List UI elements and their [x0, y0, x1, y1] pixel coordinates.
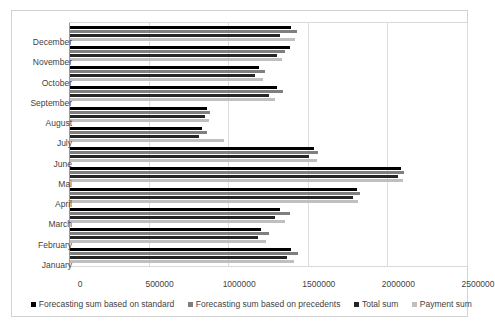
bar-group [70, 23, 467, 43]
bar [70, 171, 404, 174]
category-label: Mai [12, 179, 76, 189]
bar-group [70, 124, 467, 144]
legend-label: Forecasting sum based on precedents [196, 299, 341, 309]
legend-swatch-icon [412, 302, 417, 307]
bar [70, 252, 298, 255]
bar [70, 220, 285, 223]
category-label: March [12, 219, 76, 229]
category-label: July [12, 138, 76, 148]
legend-swatch-icon [188, 302, 193, 307]
value-tick-label: 500000 [145, 279, 173, 290]
category-label: January [12, 260, 76, 270]
chart-frame: DecemberNovemberOctoberSeptemberAugustJu… [11, 10, 468, 317]
bar-group [70, 64, 467, 84]
bar [70, 200, 358, 203]
bar [70, 248, 291, 251]
bar [70, 115, 205, 118]
bar-group [70, 165, 467, 185]
legend-item[interactable]: Payment sum [412, 299, 471, 309]
bar [70, 216, 275, 219]
legend-item[interactable]: Forecasting sum based on standard [31, 299, 174, 309]
bar [70, 151, 318, 154]
legend-swatch-icon [354, 302, 359, 307]
bar [70, 66, 259, 69]
plot-area [69, 22, 468, 267]
bar-group [70, 43, 467, 63]
category-axis-labels: DecemberNovemberOctoberSeptemberAugustJu… [12, 32, 76, 277]
bar [70, 159, 317, 162]
category-label: August [12, 118, 76, 128]
legend-item[interactable]: Total sum [354, 299, 398, 309]
bar [70, 70, 265, 73]
category-label: October [12, 78, 76, 88]
legend-item[interactable]: Forecasting sum based on precedents [188, 299, 340, 309]
bar [70, 78, 263, 81]
bar [70, 179, 403, 182]
bar [70, 74, 255, 77]
bar [70, 26, 291, 29]
bar [70, 38, 295, 41]
category-label: September [12, 98, 76, 108]
bar [70, 127, 202, 130]
bar [70, 90, 283, 93]
legend-label: Total sum [362, 299, 398, 309]
value-tick-label: 2500000 [461, 279, 494, 290]
bar [70, 236, 258, 239]
chart-legend: Forecasting sum based on standardForecas… [24, 299, 479, 309]
value-tick-label: 1500000 [302, 279, 335, 290]
bar [70, 50, 285, 53]
bar [70, 256, 287, 259]
category-label: April [12, 199, 76, 209]
bar-group [70, 226, 467, 246]
bar [70, 135, 199, 138]
gridline [467, 23, 468, 266]
value-tick-label: 1000000 [223, 279, 256, 290]
value-tick-label: 2000000 [382, 279, 415, 290]
category-label: June [12, 159, 76, 169]
bar [70, 34, 280, 37]
category-label: November [12, 57, 76, 67]
bar [70, 111, 210, 114]
bar [70, 196, 353, 199]
bar [70, 188, 357, 191]
bar [70, 107, 207, 110]
bar [70, 94, 269, 97]
bar [70, 240, 266, 243]
bar [70, 232, 269, 235]
bar-group [70, 205, 467, 225]
bar [70, 131, 207, 134]
bar [70, 147, 314, 150]
bar [70, 46, 290, 49]
legend-swatch-icon [31, 302, 36, 307]
legend-label: Forecasting sum based on standard [39, 299, 175, 309]
bar [70, 175, 398, 178]
bar [70, 30, 297, 33]
bar [70, 212, 290, 215]
bar [70, 192, 360, 195]
bar [70, 208, 280, 211]
value-axis-labels: 05000001000000150000020000002500000 [12, 279, 492, 291]
category-label: December [12, 37, 76, 47]
bar-group [70, 145, 467, 165]
legend-label: Payment sum [420, 299, 472, 309]
bar [70, 119, 209, 122]
bar [70, 54, 277, 57]
bar [70, 260, 294, 263]
category-label: February [12, 240, 76, 250]
bar-group [70, 185, 467, 205]
bar [70, 139, 224, 142]
bar [70, 228, 261, 231]
bar-group [70, 104, 467, 124]
bar [70, 167, 401, 170]
bar-group [70, 84, 467, 104]
bar-group [70, 246, 467, 266]
bar [70, 98, 275, 101]
value-tick-label: 0 [78, 279, 83, 290]
bar [70, 58, 282, 61]
bar [70, 155, 309, 158]
bar-rows [70, 23, 467, 266]
bar [70, 86, 277, 89]
